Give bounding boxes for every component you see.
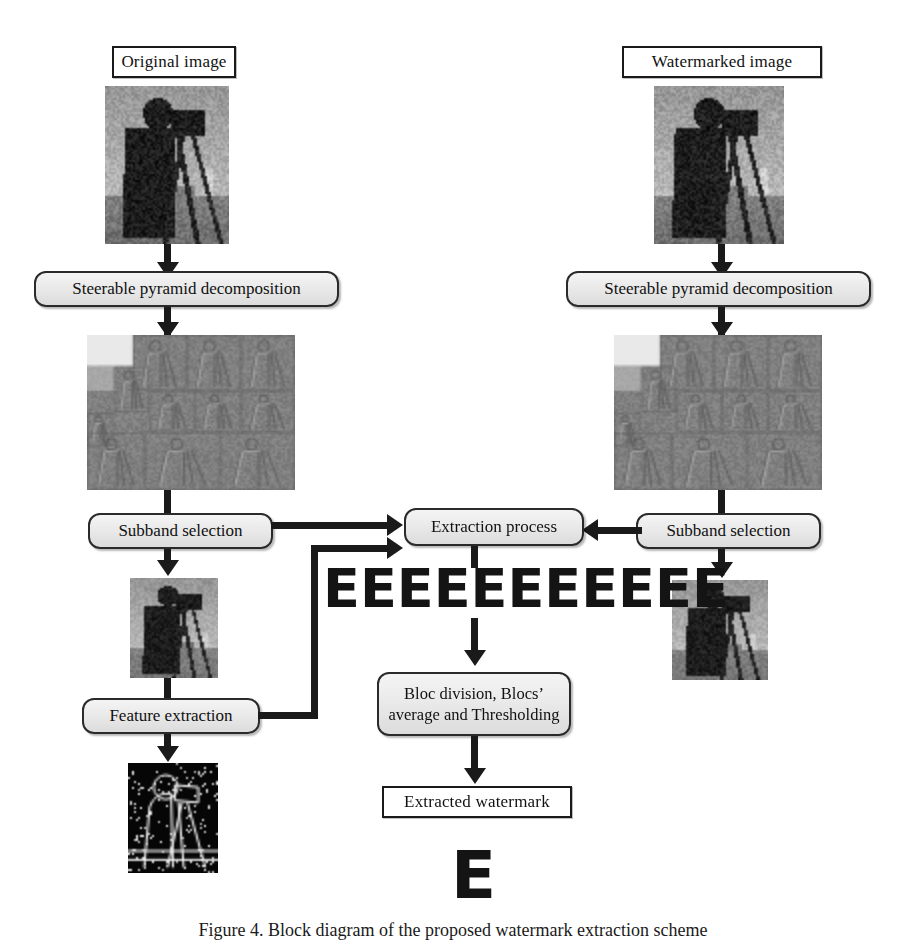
extraction-process-box: Extraction process (404, 508, 584, 546)
connector-right-pyramid-to-subband (718, 490, 725, 514)
block-division-line2: average and Thresholding (388, 704, 559, 725)
block-division-line1: Bloc division, Blocs’ (404, 683, 544, 704)
right-steerable-pyramid-box: Steerable pyramid decomposition (566, 271, 871, 307)
connector-left-pyramid-to-subband (164, 490, 171, 514)
left-feature-extraction-box: Feature extraction (82, 698, 260, 734)
arrow-sequence-to-block (464, 650, 486, 666)
figure-caption: Figure 4. Block diagram of the proposed … (0, 920, 906, 941)
connector-feature-to-extraction-v (311, 545, 318, 719)
arrow-left-subband-to-image (157, 560, 179, 576)
connector-right-subband-to-extraction (598, 527, 642, 534)
raw-watermark-sequence: EEEEEEEEEEE (323, 562, 633, 614)
extracted-watermark-label: Extracted watermark (382, 786, 572, 818)
right-source-image (654, 86, 784, 244)
left-original-image-label: Original image (112, 46, 236, 78)
right-watermarked-image-label: Watermarked image (622, 46, 822, 78)
arrow-left-subband-into-extraction (387, 514, 403, 536)
arrow-block-to-result (464, 768, 486, 784)
figure-canvas: Original image Steerable pyramid decompo… (0, 0, 906, 942)
left-feature-edge-image (128, 763, 218, 873)
extracted-watermark-glyph: E (451, 843, 496, 909)
arrow-right-subband-into-extraction (582, 519, 598, 541)
arrow-left-feature-to-edge (157, 746, 179, 762)
right-pyramid-image (614, 335, 822, 490)
left-subband-selection-box: Subband selection (88, 513, 273, 549)
left-pyramid-image (87, 335, 295, 490)
connector-feature-to-extraction-h1 (258, 712, 318, 719)
right-subband-selection-box: Subband selection (636, 513, 821, 549)
connector-left-subband-to-extraction (271, 522, 393, 529)
connector-feature-to-extraction-h2 (311, 545, 393, 552)
left-selected-subband-image (130, 578, 218, 678)
connector-left-image-to-feature (164, 678, 171, 700)
block-division-box: Bloc division, Blocs’ average and Thresh… (377, 672, 571, 736)
left-source-image (105, 86, 229, 244)
left-steerable-pyramid-box: Steerable pyramid decomposition (34, 271, 339, 307)
